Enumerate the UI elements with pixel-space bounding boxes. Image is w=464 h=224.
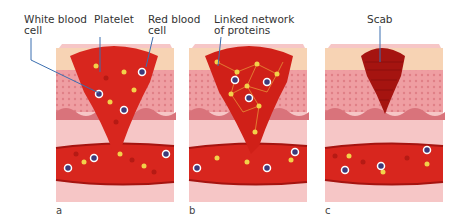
label-scab: Scab — [367, 14, 393, 25]
panel-label-c: c — [325, 205, 331, 216]
label-platelet: Platelet — [94, 14, 134, 25]
panel-c-illustration — [323, 42, 445, 202]
label-red-blood-cell: Red blood cell — [148, 14, 200, 36]
panel-b-illustration — [187, 42, 309, 202]
panel-label-a: a — [56, 205, 62, 216]
panel-a-illustration — [54, 42, 176, 202]
label-linked-network: Linked network of proteins — [214, 14, 294, 36]
panel-b — [187, 42, 309, 202]
label-white-blood-cell: White blood cell — [24, 14, 87, 36]
panel-a — [54, 42, 176, 202]
panel-c — [323, 42, 445, 202]
panel-label-b: b — [189, 205, 195, 216]
